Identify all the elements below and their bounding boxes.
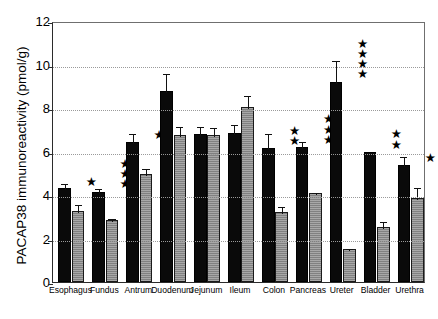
bar-bladder-gray bbox=[377, 227, 390, 282]
significance-stars: ★★ bbox=[391, 129, 402, 150]
y-axis-tick-labels: 024681012 bbox=[16, 0, 50, 319]
error-bar bbox=[268, 134, 269, 150]
gridline bbox=[53, 67, 424, 68]
y-tick-label: 4 bbox=[24, 189, 50, 202]
significance-stars: ★ bbox=[86, 177, 97, 187]
bar-ureter-black bbox=[330, 82, 343, 282]
error-bar bbox=[404, 157, 405, 167]
error-bar-cap bbox=[142, 169, 149, 170]
x-axis-tick-labels: EsophagusFundusAntrumDuodenumJejunumIleu… bbox=[52, 285, 425, 305]
y-tick-label: 0 bbox=[24, 276, 50, 289]
significance-stars: ★ bbox=[425, 153, 436, 163]
error-bar-cap bbox=[75, 205, 82, 206]
error-bar-cap bbox=[61, 184, 68, 185]
x-tick-label: Jejunum bbox=[190, 285, 222, 295]
error-bar-cap bbox=[176, 127, 183, 128]
error-bar-cap bbox=[231, 125, 238, 126]
bar-antrum-gray bbox=[140, 174, 153, 282]
gridline bbox=[53, 241, 424, 242]
y-tick-label: 10 bbox=[24, 59, 50, 72]
bar-fundus-black bbox=[92, 192, 105, 282]
star-glyph: ★ bbox=[391, 140, 402, 150]
gridline bbox=[53, 110, 424, 111]
plot-area: ★★★★★★★★★★★★★★★★★ bbox=[52, 22, 425, 283]
bar-esophagus-gray bbox=[72, 211, 85, 282]
bars-layer: ★★★★★★★★★★★★★★★★★ bbox=[53, 23, 424, 282]
error-bar bbox=[200, 127, 201, 136]
significance-stars: ★★★★ bbox=[357, 39, 368, 80]
error-bar-cap bbox=[414, 188, 421, 189]
error-bar bbox=[146, 169, 147, 177]
error-bar-cap bbox=[400, 157, 407, 158]
y-tick-label: 6 bbox=[24, 146, 50, 159]
x-tick-label: Ileum bbox=[229, 285, 250, 295]
bar-ureter-gray bbox=[343, 249, 356, 282]
error-bar bbox=[133, 134, 134, 144]
error-bar-cap bbox=[346, 249, 353, 250]
bar-ileum-gray bbox=[241, 107, 254, 282]
star-glyph: ★ bbox=[425, 153, 436, 163]
x-tick-label: Antrum bbox=[124, 285, 152, 295]
bar-jejunum-gray bbox=[207, 135, 220, 282]
error-bar-cap bbox=[265, 134, 272, 135]
figure-root: PACAP38 immunoreactivity (pmol/g) 024681… bbox=[0, 0, 438, 319]
x-tick-label: Urethra bbox=[395, 285, 424, 295]
x-tick-label: Pancreas bbox=[290, 285, 326, 295]
error-bar-cap bbox=[210, 128, 217, 129]
significance-stars: ★★ bbox=[289, 126, 300, 147]
error-bar bbox=[336, 61, 337, 84]
bar-pancreas-gray bbox=[309, 193, 322, 282]
error-bar bbox=[78, 205, 79, 214]
error-bar bbox=[166, 74, 167, 92]
error-bar bbox=[248, 96, 249, 109]
error-bar-cap bbox=[108, 219, 115, 220]
bar-colon-gray bbox=[275, 212, 288, 282]
x-tick-label: Colon bbox=[263, 285, 285, 295]
bar-bladder-black bbox=[364, 152, 377, 283]
error-bar-cap bbox=[380, 222, 387, 223]
error-bar bbox=[214, 128, 215, 137]
error-bar-cap bbox=[95, 189, 102, 190]
error-bar bbox=[180, 127, 181, 137]
error-bar bbox=[302, 142, 303, 150]
error-bar-cap bbox=[278, 207, 285, 208]
error-bar-cap bbox=[129, 134, 136, 135]
bar-esophagus-black bbox=[58, 188, 71, 282]
x-tick-label: Fundus bbox=[90, 285, 119, 295]
error-bar-cap bbox=[332, 61, 339, 62]
bar-duodenum-black bbox=[160, 91, 173, 282]
bar-colon-black bbox=[262, 148, 275, 282]
star-glyph: ★ bbox=[86, 177, 97, 187]
bar-jejunum-black bbox=[194, 134, 207, 282]
error-bar bbox=[234, 125, 235, 135]
error-bar-cap bbox=[197, 127, 204, 128]
star-glyph: ★ bbox=[357, 69, 368, 79]
bar-antrum-black bbox=[126, 142, 139, 282]
error-bar bbox=[282, 207, 283, 215]
bar-duodenum-gray bbox=[174, 135, 187, 282]
y-tick-label: 2 bbox=[24, 233, 50, 246]
y-tick-label: 8 bbox=[24, 102, 50, 115]
error-bar-cap bbox=[312, 193, 319, 194]
gridline bbox=[53, 154, 424, 155]
y-tick-mark bbox=[48, 23, 53, 24]
bar-urethra-black bbox=[398, 165, 411, 282]
x-tick-label: Esophagus bbox=[49, 285, 92, 295]
x-tick-label: Ureter bbox=[330, 285, 354, 295]
y-tick-label: 12 bbox=[24, 15, 50, 28]
bar-fundus-gray bbox=[106, 220, 119, 282]
error-bar bbox=[417, 188, 418, 200]
x-tick-label: Duodenum bbox=[151, 285, 193, 295]
error-bar-cap bbox=[299, 142, 306, 143]
gridline bbox=[53, 197, 424, 198]
bar-ileum-black bbox=[228, 133, 241, 282]
error-bar-cap bbox=[244, 96, 251, 97]
x-tick-label: Bladder bbox=[361, 285, 391, 295]
error-bar-cap bbox=[163, 74, 170, 75]
bar-pancreas-black bbox=[296, 147, 309, 282]
